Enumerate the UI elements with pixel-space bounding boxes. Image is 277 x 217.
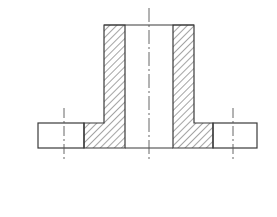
right-section-hatch: [173, 25, 213, 148]
section-drawing: [0, 0, 277, 217]
right-flange-bolt-hole: [213, 123, 257, 148]
left-flange-bolt-hole: [38, 123, 84, 148]
left-section-hatch: [84, 25, 125, 148]
